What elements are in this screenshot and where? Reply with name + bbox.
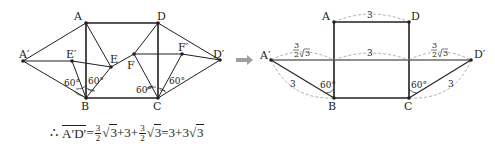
- svg-text:2: 2: [294, 50, 299, 59]
- equals-1: =: [86, 125, 93, 141]
- segment-a-prime-d-prime: A′D′: [62, 125, 86, 142]
- segments-right: [271, 60, 471, 98]
- sqrt-1: √3: [102, 125, 117, 141]
- angle-b-right: 60°: [88, 76, 104, 86]
- point-f: [132, 52, 136, 56]
- dim-c-d-prime: 3: [448, 79, 454, 89]
- therefore-symbol: ∴: [50, 125, 58, 141]
- plus-three-plus: +3+: [117, 125, 138, 141]
- label-c-right: C: [404, 100, 412, 113]
- label-b-right: B: [328, 100, 336, 113]
- label-d-right: D: [411, 10, 420, 23]
- angle-c-left: 60°: [136, 85, 152, 95]
- label-e-prime: E′: [66, 48, 77, 61]
- label-d-prime: D′: [213, 48, 225, 61]
- angle-arcs-right: [326, 89, 417, 93]
- equals-result: =3+3: [161, 125, 189, 141]
- dim-left-fraction: 3 2 3: [293, 41, 310, 59]
- label-a: A: [73, 10, 83, 23]
- left-figure: [23, 23, 220, 98]
- construction-lines: [23, 23, 220, 98]
- label-a-prime: A′: [18, 48, 30, 61]
- svg-text:2: 2: [432, 50, 437, 59]
- dim-ad: 3: [367, 10, 373, 20]
- label-a-prime-right: A′: [259, 49, 271, 62]
- angle-b-right-fig: 60°: [320, 80, 336, 90]
- fraction-1: 3 2: [95, 124, 102, 143]
- angle-c-right: 60°: [169, 76, 185, 86]
- dim-middle: 3: [367, 48, 373, 58]
- label-e: E: [110, 53, 118, 66]
- fraction-2: 3 2: [139, 124, 146, 143]
- svg-text:3: 3: [432, 41, 437, 50]
- label-c: C: [153, 100, 161, 113]
- svg-text:3: 3: [305, 49, 310, 58]
- sqrt-3: √3: [189, 125, 204, 141]
- angle-c-right-fig: 60°: [411, 80, 427, 90]
- label-f-prime: F′: [178, 41, 189, 54]
- right-arrow-icon: [236, 55, 253, 65]
- label-f: F: [127, 59, 135, 72]
- label-a-right: A: [321, 10, 331, 23]
- dim-a-prime-b: 3: [290, 79, 296, 89]
- point-a-right: [332, 20, 336, 24]
- label-d: D: [157, 10, 166, 23]
- point-d-prime-right: [469, 58, 473, 62]
- dim-right-fraction: 3 2 3: [431, 41, 448, 59]
- angle-b-left: 60°: [64, 78, 80, 88]
- point-a: [84, 21, 88, 25]
- label-d-prime-right: D′: [474, 48, 486, 61]
- svg-text:3: 3: [294, 41, 299, 50]
- svg-text:3: 3: [443, 49, 448, 58]
- sqrt-2: √3: [147, 125, 162, 141]
- conclusion-formula: ∴ A′D′ = 3 2 √3 +3+ 3 2 √3 =3+3 √3: [50, 120, 204, 146]
- label-b: B: [81, 100, 89, 113]
